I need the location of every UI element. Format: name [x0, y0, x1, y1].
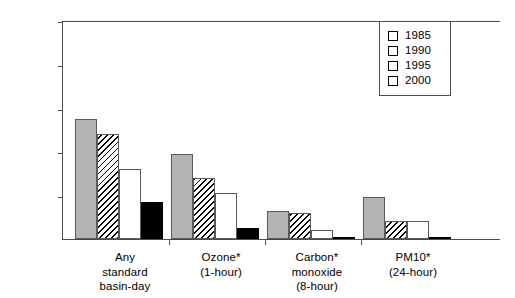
bar-group-ozone-1-hour [171, 22, 259, 239]
bar-1985-g2[interactable] [171, 154, 193, 239]
bar-1990-g1[interactable] [97, 134, 119, 239]
x-tick-mark-1 [169, 239, 170, 245]
bar-1990-g3[interactable] [289, 213, 311, 239]
y-tick-mark-80 [58, 66, 63, 67]
legend: 1985 1990 1995 2000 [379, 21, 451, 96]
legend-swatch-2000-icon [388, 76, 398, 86]
bar-1995-g3[interactable] [311, 230, 333, 239]
bar-1995-g2[interactable] [215, 193, 237, 239]
bar-1985-g4[interactable] [363, 197, 385, 239]
x-tick-mark-3 [361, 239, 362, 245]
bar-1995-g4[interactable] [407, 221, 429, 239]
legend-label-1985: 1985 [405, 30, 431, 42]
bar-1985-g1[interactable] [75, 119, 97, 239]
y-tick-mark-60 [58, 110, 63, 111]
y-tick-mark-40 [58, 153, 63, 154]
bar-1990-g4[interactable] [385, 221, 407, 239]
bar-1990-g2[interactable] [193, 178, 215, 239]
bar-2000-g1[interactable] [141, 202, 163, 239]
bar-2000-g4[interactable] [429, 237, 451, 239]
legend-item-1985[interactable]: 1985 [388, 28, 442, 43]
bar-2000-g2[interactable] [237, 228, 259, 239]
legend-label-2000: 2000 [405, 75, 431, 87]
bar-chart: 100% 80% 60% 40% 20% 0% [0, 0, 515, 298]
x-label-pm10: PM10* (24-hour) [356, 250, 470, 279]
legend-item-1990[interactable]: 1990 [388, 43, 442, 58]
bar-2000-g3[interactable] [333, 237, 355, 239]
legend-label-1995: 1995 [405, 60, 431, 72]
bar-group-carbon-monoxide-8-hour [267, 22, 355, 239]
legend-item-1995[interactable]: 1995 [388, 58, 442, 73]
y-tick-mark-20 [58, 197, 63, 198]
legend-swatch-1995-icon [388, 61, 398, 71]
legend-item-2000[interactable]: 2000 [388, 73, 442, 88]
legend-swatch-1990-icon [388, 46, 398, 56]
x-tick-mark-2 [265, 239, 266, 245]
legend-label-1990: 1990 [405, 45, 431, 57]
bar-group-any-standard-basin-day [75, 22, 163, 239]
legend-swatch-1985-icon [388, 31, 398, 41]
bar-1995-g1[interactable] [119, 169, 141, 239]
y-tick-mark-100 [58, 22, 63, 23]
bar-1985-g3[interactable] [267, 211, 289, 239]
